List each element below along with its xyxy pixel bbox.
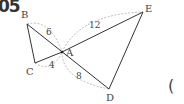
answer-bracket: (	[168, 76, 174, 95]
label-e: E	[145, 3, 152, 14]
length-ac: 4	[49, 60, 55, 70]
length-ae: 12	[89, 20, 100, 30]
label-c: C	[26, 66, 34, 77]
segment-ae	[62, 12, 143, 52]
label-b: B	[21, 9, 28, 20]
length-ab: 6	[46, 27, 52, 37]
label-d: D	[106, 92, 114, 103]
label-a: A	[65, 47, 74, 58]
segment-ed	[109, 12, 143, 89]
length-ad: 8	[76, 71, 82, 81]
point-a-dot	[61, 51, 64, 54]
triangle-diagram: B A C D E 6 12 4 8	[0, 0, 184, 104]
